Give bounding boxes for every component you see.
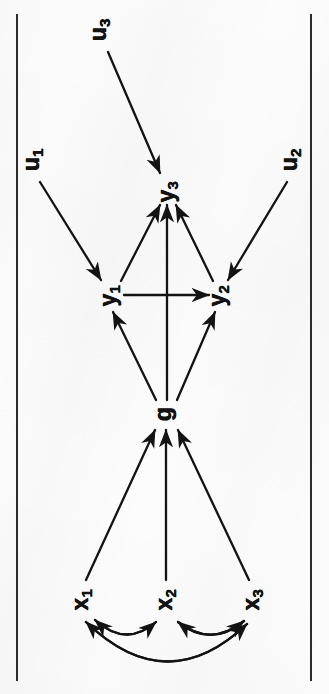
node-label-y2: y2 — [206, 285, 231, 306]
node-label-g: g — [152, 407, 177, 421]
node-base-y2: y — [204, 294, 230, 307]
edge-x3-to-g — [178, 430, 249, 580]
edge-x1-to-g — [86, 430, 155, 580]
edge-x1-x3-backward — [86, 622, 247, 662]
node-label-x2: x2 — [153, 589, 178, 610]
node-label-y1: y1 — [97, 285, 122, 306]
node-label-u3: u3 — [87, 19, 112, 41]
edge-u3-to-y3 — [108, 52, 160, 173]
node-base-u2: u — [276, 157, 302, 171]
node-label-u2: u2 — [278, 149, 303, 171]
node-label-u1: u1 — [20, 149, 45, 171]
node-base-u1: u — [18, 157, 44, 171]
node-sub-x1: 1 — [79, 589, 96, 597]
edge-u1-to-y1 — [40, 182, 101, 280]
edge-x2-x3-backward — [178, 621, 244, 635]
edge-g-to-y1 — [113, 312, 156, 400]
node-label-x3: x3 — [240, 589, 265, 610]
node-sub-u2: 2 — [288, 149, 305, 157]
edge-y2-to-y3 — [176, 205, 213, 281]
node-label-x1: x1 — [69, 589, 94, 610]
node-sub-x2: 2 — [163, 589, 180, 597]
node-base-u3: u — [85, 27, 111, 41]
node-base-y3: y — [153, 190, 179, 203]
node-base-g: g — [150, 407, 176, 421]
node-sub-y3: 3 — [165, 181, 182, 189]
node-base-y1: y — [95, 294, 121, 307]
node-sub-x3: 3 — [250, 589, 267, 597]
edge-x1-x2-backward — [95, 620, 156, 635]
node-sub-u3: 3 — [97, 19, 114, 27]
node-label-y3: y3 — [155, 181, 180, 202]
edge-g-to-y2 — [177, 312, 215, 400]
node-sub-y2: 2 — [216, 285, 233, 293]
node-base-x2: x — [151, 598, 177, 611]
signal-flow-graph: u3 u1 u2 y3 y1 y2 g x1 x2 x3 — [0, 0, 329, 694]
node-sub-y1: 1 — [107, 285, 124, 293]
node-base-x1: x — [67, 598, 93, 611]
node-base-x3: x — [238, 598, 264, 611]
edge-u2-to-y2 — [228, 182, 287, 280]
scanned-figure-page: u3 u1 u2 y3 y1 y2 g x1 x2 x3 — [0, 0, 329, 694]
node-sub-u1: 1 — [30, 149, 47, 157]
edge-y1-to-y3 — [121, 205, 160, 281]
